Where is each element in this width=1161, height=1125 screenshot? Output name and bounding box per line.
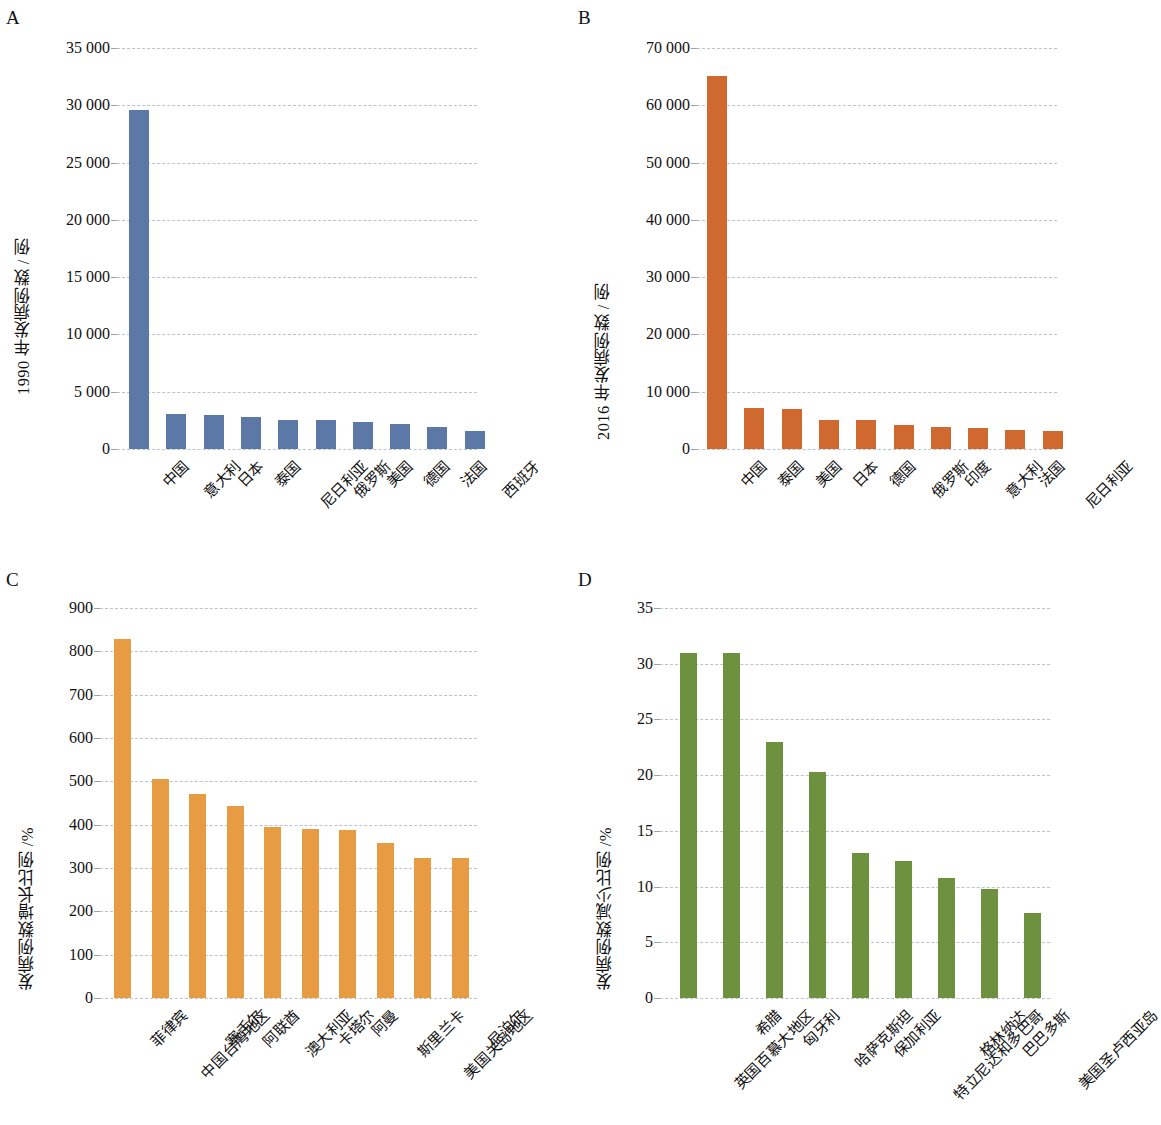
- y-tick-label: 10 000: [646, 383, 697, 401]
- bar: [166, 414, 186, 449]
- bar: [189, 794, 206, 998]
- gridline: [117, 449, 477, 450]
- bar: [809, 772, 826, 998]
- panel-b-bars: [697, 48, 1057, 449]
- y-tick-label: 800: [69, 642, 100, 660]
- bar: [204, 415, 224, 449]
- bar: [895, 861, 912, 998]
- gridline: [697, 449, 1057, 450]
- y-tick-label: 0: [645, 989, 660, 1007]
- y-tick-label: 20 000: [646, 325, 697, 343]
- bar: [377, 843, 394, 998]
- panel-d-y-axis-label: 发病例数减少比例 /%: [594, 690, 618, 990]
- y-tick-label: 20: [637, 766, 660, 784]
- y-tick-label: 10: [637, 878, 660, 896]
- bar: [707, 76, 727, 450]
- bar: [852, 853, 869, 998]
- y-tick-label: 15 000: [66, 268, 117, 286]
- panel-a-bars: [117, 48, 477, 449]
- y-tick-label: 300: [69, 859, 100, 877]
- y-tick-label: 50 000: [646, 154, 697, 172]
- y-tick-label: 500: [69, 772, 100, 790]
- panel-c: C 发病例数增长比例 /% 01002003004005006007008009…: [0, 560, 540, 1125]
- y-tick-label: 10 000: [66, 325, 117, 343]
- bar: [981, 889, 998, 998]
- y-tick-label: 35 000: [66, 39, 117, 57]
- bar: [1005, 430, 1025, 449]
- bar: [968, 428, 988, 449]
- bar: [427, 427, 447, 449]
- panel-c-y-axis-label: 发病例数增长比例 /%: [16, 690, 40, 990]
- bar: [129, 110, 149, 449]
- panel-b-plot-area: 010 00020 00030 00040 00050 00060 00070 …: [697, 48, 1057, 449]
- bar: [390, 424, 410, 449]
- panel-d-bars: [660, 608, 1050, 998]
- x-axis-label: 日本: [847, 455, 883, 491]
- bar: [339, 830, 356, 998]
- bar: [452, 858, 469, 998]
- bar: [938, 878, 955, 998]
- bar: [241, 417, 261, 449]
- y-tick-label: 900: [69, 599, 100, 617]
- y-tick-label: 70 000: [646, 39, 697, 57]
- y-tick-label: 60 000: [646, 96, 697, 114]
- panel-c-plot-area: 0100200300400500600700800900: [100, 608, 477, 998]
- x-axis-label: 法国: [1033, 455, 1069, 491]
- y-tick-label: 25: [637, 710, 660, 728]
- y-tick-label: 30: [637, 655, 660, 673]
- bar: [414, 858, 431, 998]
- y-tick-label: 5 000: [74, 383, 117, 401]
- panel-letter-c: C: [6, 570, 19, 589]
- y-tick-label: 30 000: [646, 268, 697, 286]
- gridline: [660, 998, 1050, 999]
- x-axis-label: 西班牙: [497, 455, 544, 502]
- bar: [723, 653, 740, 998]
- y-tick-label: 20 000: [66, 211, 117, 229]
- panel-letter-a: A: [6, 8, 20, 27]
- panel-b-y-axis-label: 2016 年发病例数 / 例: [592, 140, 616, 440]
- y-tick-label: 40 000: [646, 211, 697, 229]
- panel-letter-d: D: [578, 570, 592, 589]
- bar: [894, 425, 914, 449]
- x-axis-label: 美国圣卢西亚岛: [1072, 1004, 1161, 1093]
- bar: [1043, 431, 1063, 449]
- y-tick-label: 30 000: [66, 96, 117, 114]
- y-tick-label: 0: [682, 440, 697, 458]
- y-tick-label: 0: [85, 989, 100, 1007]
- bar: [766, 742, 783, 998]
- bar: [114, 639, 131, 998]
- x-axis-label: 法国: [455, 455, 491, 491]
- bar: [819, 420, 839, 449]
- y-tick-label: 35: [637, 599, 660, 617]
- bar: [856, 420, 876, 449]
- x-axis-label: 泰国: [772, 455, 808, 491]
- x-axis-label: 泰国: [269, 455, 305, 491]
- bar: [227, 806, 244, 998]
- x-axis-label: 德国: [418, 455, 454, 491]
- panel-d: D 发病例数减少比例 /% 05101520253035 英国百慕大地区希腊匈牙…: [540, 560, 1069, 1125]
- x-axis-label: 菲律宾: [145, 1004, 192, 1051]
- bar: [1024, 913, 1041, 998]
- y-tick-label: 5: [645, 933, 660, 951]
- x-axis-label: 中国: [735, 455, 771, 491]
- y-tick-label: 0: [102, 440, 117, 458]
- panel-a-plot-area: 05 00010 00015 00020 00025 00030 00035 0…: [117, 48, 477, 449]
- bar: [782, 409, 802, 449]
- bar: [278, 420, 298, 449]
- y-tick-label: 100: [69, 946, 100, 964]
- bar: [152, 779, 169, 998]
- y-tick-label: 700: [69, 686, 100, 704]
- panel-d-plot-area: 05101520253035: [660, 608, 1050, 998]
- y-tick-label: 600: [69, 729, 100, 747]
- x-axis-label: 日本: [231, 455, 267, 491]
- bar: [302, 829, 319, 998]
- x-axis-label: 尼日利亚: [1079, 455, 1136, 512]
- bar: [931, 427, 951, 449]
- panel-a-y-axis-label: 1990 年发病例数 / 例: [12, 95, 36, 395]
- x-axis-label: 中国: [157, 455, 193, 491]
- panel-a: A 1990 年发病例数 / 例 05 00010 00015 00020 00…: [0, 0, 540, 560]
- bar: [264, 827, 281, 998]
- bar: [680, 653, 697, 998]
- bar: [465, 431, 485, 449]
- x-axis-label: 斯里兰卡: [412, 1004, 469, 1061]
